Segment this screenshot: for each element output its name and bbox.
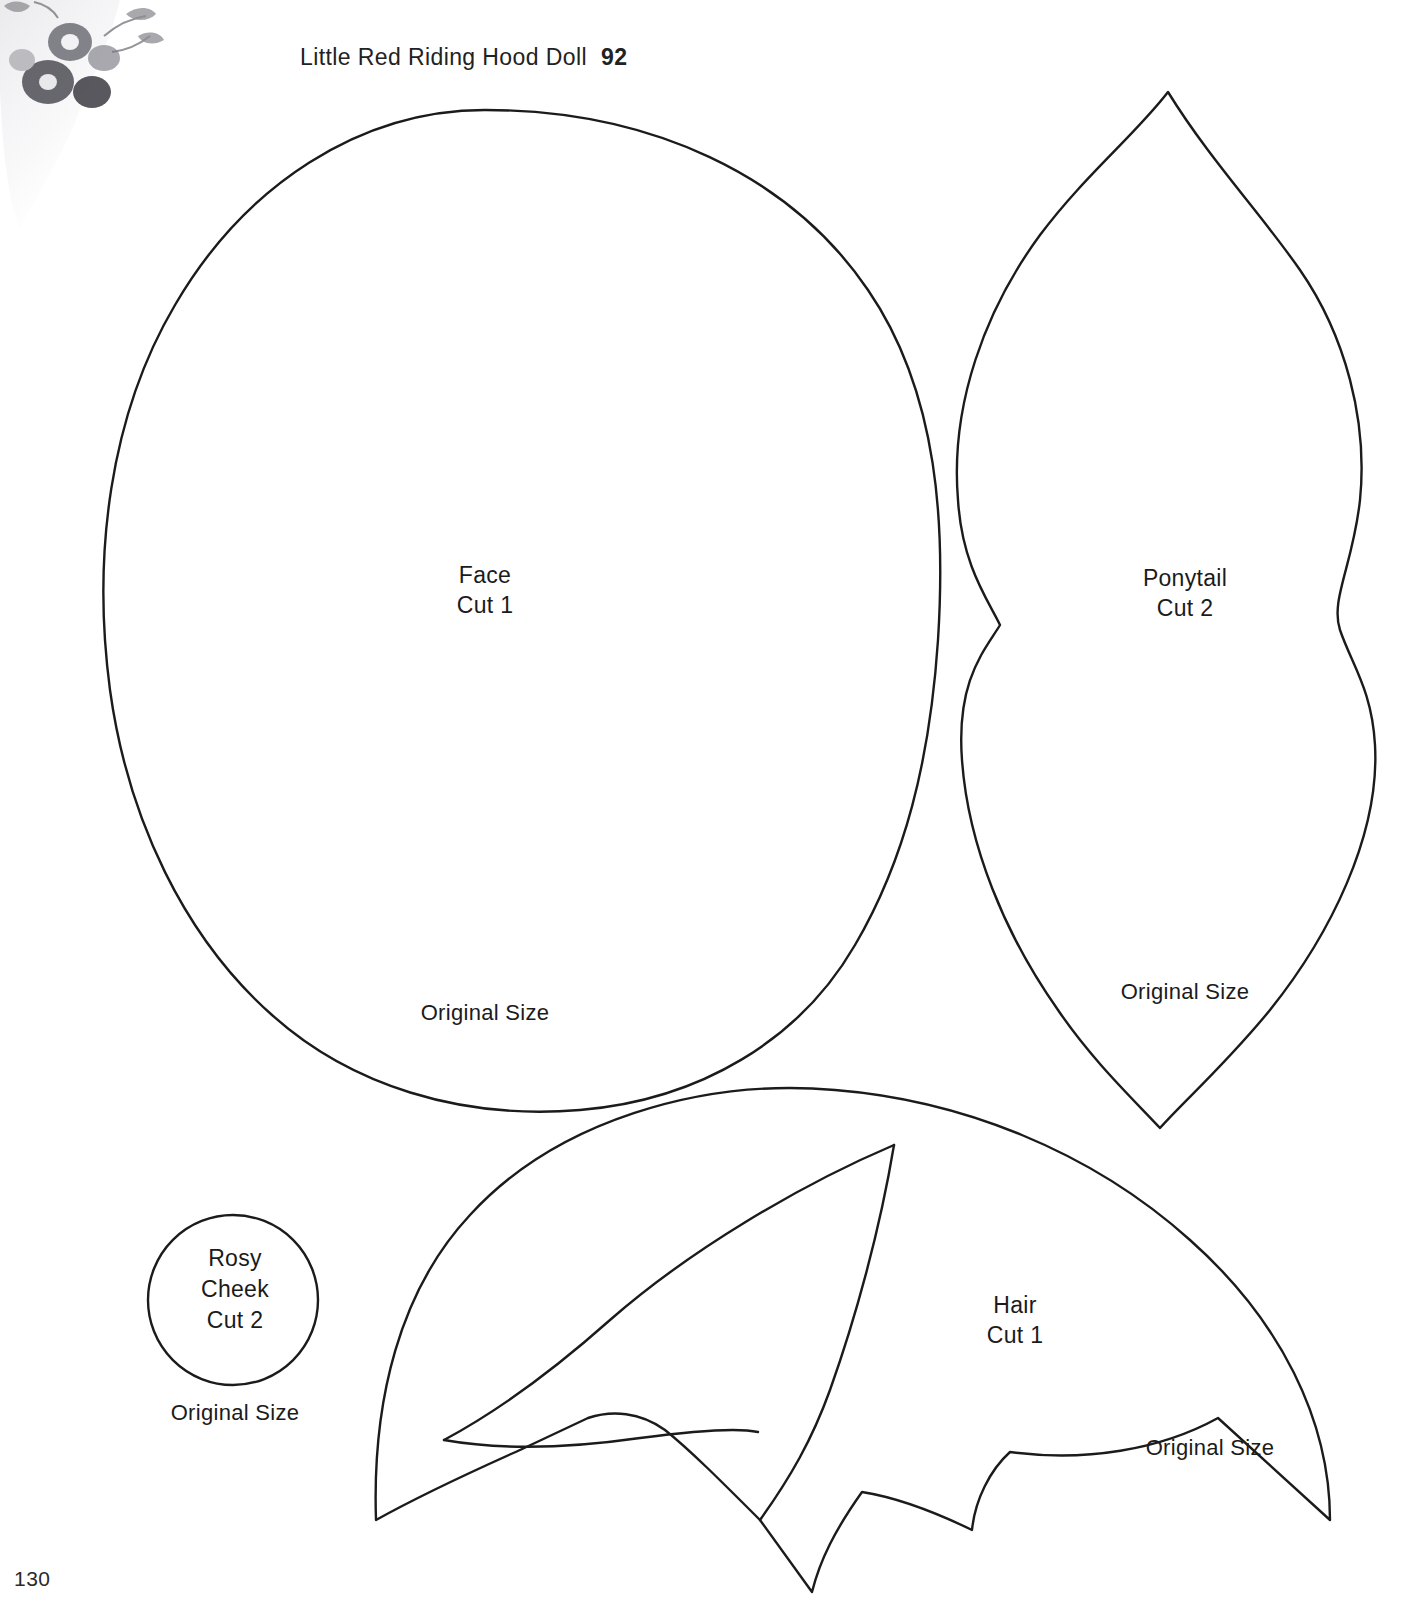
pattern-outlines: [0, 0, 1417, 1605]
hair-size-note: Original Size: [1065, 1433, 1355, 1463]
face-pattern-label: Face Cut 1: [340, 560, 630, 620]
rosy-cheek-pattern-label: Rosy Cheek Cut 2: [120, 1243, 350, 1336]
hair-pattern-label: Hair Cut 1: [895, 1290, 1135, 1350]
face-size-note: Original Size: [340, 998, 630, 1028]
page-folio-number: 130: [14, 1567, 51, 1591]
ponytail-pattern-label: Ponytail Cut 2: [1040, 563, 1330, 623]
ponytail-size-note: Original Size: [1040, 977, 1330, 1007]
rosy-cheek-size-note: Original Size: [90, 1398, 380, 1428]
pattern-sheet-page: Little Red Riding Hood Doll92 Face Cut 1…: [0, 0, 1417, 1605]
